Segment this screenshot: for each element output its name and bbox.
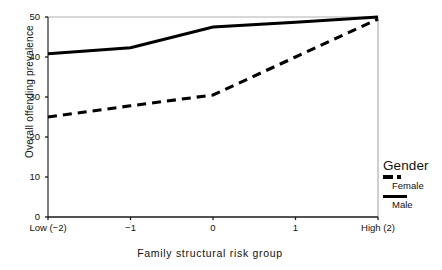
series-line-male	[48, 17, 378, 54]
legend: Gender Female Male	[383, 158, 442, 211]
y-tick-label: 20	[14, 132, 40, 142]
y-tick-label: 0	[14, 212, 40, 222]
y-tick-label: 10	[14, 172, 40, 182]
legend-label-female: Female	[383, 180, 442, 192]
y-tick-label: 40	[14, 52, 40, 62]
y-tick-label: 30	[14, 92, 40, 102]
x-tick-label: Low (−2)	[8, 223, 88, 233]
x-tick-label: 1	[256, 223, 336, 233]
series-line-female	[48, 19, 378, 117]
y-tick-label: 50	[14, 12, 40, 22]
legend-swatch-dashed-icon	[383, 175, 407, 179]
legend-swatch-solid-icon	[383, 195, 407, 198]
x-tick-label: −1	[91, 223, 171, 233]
legend-label-male: Male	[383, 199, 442, 211]
x-tick-label: High (2)	[338, 223, 418, 233]
x-tick-label: 0	[173, 223, 253, 233]
legend-entry-female: Female	[383, 175, 442, 192]
legend-title: Gender	[383, 158, 442, 173]
x-axis-title: Family structural risk group	[40, 247, 380, 259]
chart-figure: Overall offending prevalence 50403020100…	[0, 0, 442, 270]
legend-entry-male: Male	[383, 195, 442, 211]
